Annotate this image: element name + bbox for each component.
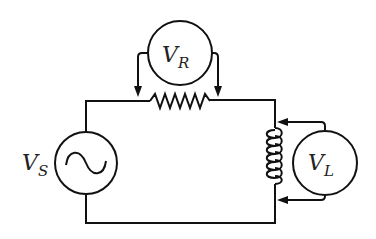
arrow-down-icon	[214, 86, 222, 97]
vl-label: VL	[308, 150, 334, 180]
resistor	[150, 94, 210, 108]
arrow-down-icon	[134, 86, 142, 97]
inductor	[267, 128, 282, 184]
circuit-wires	[86, 100, 275, 223]
sine-wave-icon	[66, 153, 106, 174]
vr-label: VR	[162, 42, 189, 72]
arrow-left-icon	[277, 196, 288, 204]
source-label: VS	[22, 150, 48, 180]
ac-voltage-source	[55, 132, 117, 194]
rl-circuit-diagram: VS VR VL	[0, 0, 376, 239]
arrow-left-icon	[277, 118, 288, 126]
